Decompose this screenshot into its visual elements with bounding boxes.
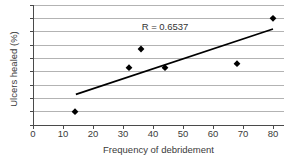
x-tick-label: 40 [148,128,159,139]
data-point [138,46,145,53]
x-tick-label: 70 [238,128,249,139]
x-tick-label: 30 [118,128,129,139]
x-tick-label: 20 [88,128,99,139]
x-axis-label: Frequency of debridement [33,144,284,155]
x-tick-label: 10 [58,128,69,139]
x-tick-label: 50 [178,128,189,139]
y-axis-label: Ulcers healed (%) [8,31,19,107]
x-tick-label: 60 [208,128,219,139]
correlation-annotation: R = 0.6537 [132,21,198,32]
data-point [234,60,241,67]
x-tick-label: 80 [268,128,279,139]
x-tick-label: 0 [30,128,35,139]
data-point [72,108,79,115]
data-point [126,64,133,71]
scatter-chart-figure: 01020304050607080 R = 0.6537 Ulcers heal… [0,0,290,162]
data-point [270,15,277,22]
